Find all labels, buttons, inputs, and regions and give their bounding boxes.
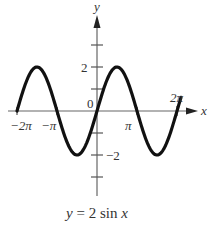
chart-svg: y x 2 −2 0 −2π −π π 2π y = 2 sin x xyxy=(0,0,210,226)
y-axis-arrow-icon xyxy=(94,15,101,28)
x-axis-label: x xyxy=(200,103,207,118)
x-tick-label-neg2pi: −2π xyxy=(10,118,32,133)
origin-label: 0 xyxy=(87,96,94,111)
x-tick-label-negpi: −π xyxy=(41,118,57,133)
x-axis-arrow-icon xyxy=(186,108,198,115)
x-tick-label-2pi: 2π xyxy=(170,90,184,105)
y-tick-label-2: 2 xyxy=(81,60,88,75)
x-tick-label-pi: π xyxy=(125,118,132,133)
y-axis-label: y xyxy=(92,0,100,14)
chart-caption: y = 2 sin x xyxy=(64,205,128,221)
y-tick-label-neg2: −2 xyxy=(106,148,120,163)
